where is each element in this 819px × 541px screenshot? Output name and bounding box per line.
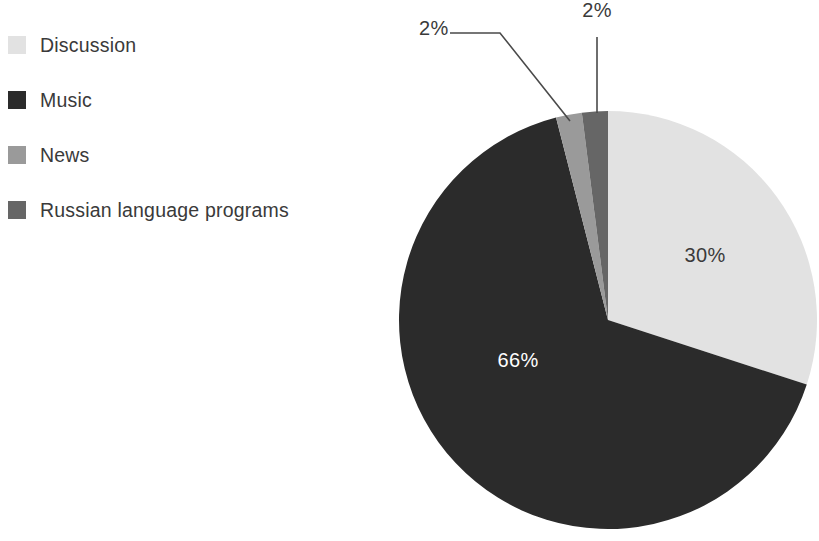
pie-chart-plot-area: 2% 2% 30% 66% — [0, 0, 819, 541]
pie-chart-figure: Discussion Music News Russian language p… — [0, 0, 819, 541]
news-leader-line — [450, 33, 570, 121]
music-value-label: 66% — [498, 349, 539, 371]
pie-chart-svg: 2% 2% 30% 66% — [0, 0, 819, 541]
discussion-value-label: 30% — [685, 244, 726, 266]
news-value-label: 2% — [419, 17, 449, 39]
pie-slices — [399, 111, 817, 529]
russian-value-label: 2% — [582, 0, 612, 21]
